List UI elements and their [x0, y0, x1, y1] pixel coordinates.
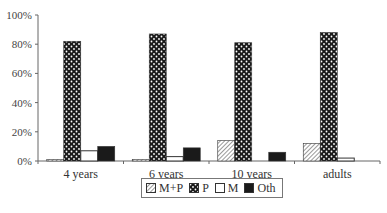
legend: M+P P M Oth	[141, 178, 283, 198]
y-tick-label: 80%	[12, 38, 32, 50]
bar-p	[64, 41, 81, 161]
y-tick-label: 100%	[6, 9, 32, 21]
bar-oth	[269, 152, 286, 161]
black-swatch-icon	[244, 183, 254, 193]
legend-item-oth: Oth	[244, 181, 275, 196]
dots-swatch-icon	[189, 183, 199, 193]
bar-m-plus-p	[47, 160, 64, 161]
legend-label: M+P	[159, 181, 183, 196]
white-swatch-icon	[215, 183, 225, 193]
category-label: 4 years	[64, 167, 99, 181]
bar-m	[337, 158, 354, 161]
bar-p	[149, 34, 166, 161]
bar-m	[81, 151, 98, 161]
bars	[47, 33, 355, 161]
bar-oth	[183, 148, 200, 161]
bar-oth	[98, 146, 115, 161]
legend-item-p: P	[189, 181, 209, 196]
legend-label: M	[228, 181, 239, 196]
legend-label: Oth	[257, 181, 275, 196]
y-tick-label: 0%	[17, 155, 32, 167]
bar-m	[166, 157, 183, 161]
legend-item-m: M	[215, 181, 239, 196]
y-tick-label: 20%	[12, 126, 32, 138]
y-axis: 0%20%40%60%80%100%	[6, 9, 38, 167]
bar-p	[235, 43, 252, 161]
bar-m-plus-p	[132, 160, 149, 161]
y-tick-label: 40%	[12, 97, 32, 109]
bar-m-plus-p	[303, 143, 320, 161]
legend-item-m-plus-p: M+P	[146, 181, 183, 196]
bar-p	[320, 33, 337, 161]
y-tick-label: 60%	[12, 67, 32, 79]
legend-label: P	[202, 181, 209, 196]
category-label: adults	[323, 167, 352, 181]
bar-m-plus-p	[218, 141, 235, 161]
hatch-swatch-icon	[146, 183, 156, 193]
